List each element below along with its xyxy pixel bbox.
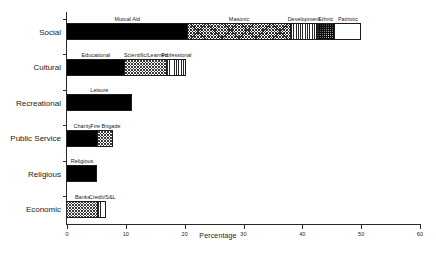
bar-row: CharityFire Brigade xyxy=(67,130,420,147)
x-axis-tick xyxy=(67,225,68,229)
x-axis-tick xyxy=(244,225,245,229)
y-axis-tick xyxy=(63,19,67,20)
y-axis-category-label: Economic xyxy=(26,205,61,214)
y-axis-tick xyxy=(63,125,67,126)
bar-segment-label: Ethnic xyxy=(318,16,333,22)
bar-segment-label: Leisure xyxy=(90,87,108,93)
bar-row: Leisure xyxy=(67,94,420,111)
bar-segment xyxy=(67,23,188,40)
bar-segment xyxy=(335,23,361,40)
y-axis-tick xyxy=(63,54,67,55)
bar-row: EducationalScientific/LearnedProfessiona… xyxy=(67,59,420,76)
bar-segment-label: Credit/S&L xyxy=(89,194,116,200)
bar-segment-label: Masonic xyxy=(229,16,249,22)
x-axis-tick xyxy=(302,225,303,229)
bar-segment-label: Development xyxy=(288,16,320,22)
bar-segment xyxy=(67,59,125,76)
plot-area: 0102030405060SocialMutual AidMasonicDeve… xyxy=(67,12,420,225)
bar-segment xyxy=(67,130,98,147)
bar-segment-label: Banks xyxy=(75,194,90,200)
bar-segment-label: Mutual Aid xyxy=(114,16,140,22)
bar-row: Mutual AidMasonicDevelopmentEthnicPatrio… xyxy=(67,23,420,40)
y-axis-tick xyxy=(63,90,67,91)
bar-row: Religious xyxy=(67,165,420,182)
y-axis-category-label: Social xyxy=(39,27,61,36)
bar-row: BanksCredit/S&L xyxy=(67,201,420,218)
x-axis-tick xyxy=(420,225,421,229)
bar-segment xyxy=(125,59,167,76)
bar-segment xyxy=(67,94,132,111)
bar-segment xyxy=(188,23,291,40)
y-axis-category-label: Cultural xyxy=(33,63,61,72)
bar-segment xyxy=(98,201,106,218)
y-axis-category-label: Public Service xyxy=(10,134,61,143)
bar-segment xyxy=(317,23,335,40)
bar-chart: 0102030405060SocialMutual AidMasonicDeve… xyxy=(0,0,436,253)
bar-segment-label: Charity xyxy=(74,123,91,129)
bar-segment xyxy=(67,165,97,182)
x-axis-tick xyxy=(361,225,362,229)
x-axis-tick xyxy=(126,225,127,229)
bar-segment-label: Fire Brigade xyxy=(91,123,121,129)
y-axis-category-label: Recreational xyxy=(16,98,61,107)
bar-segment xyxy=(291,23,317,40)
bar-segment-label: Educational xyxy=(81,52,110,58)
x-axis-title: Percentage xyxy=(0,232,436,239)
y-axis-tick xyxy=(63,196,67,197)
y-axis-tick xyxy=(63,161,67,162)
x-axis-tick xyxy=(185,225,186,229)
bar-segment xyxy=(167,59,186,76)
y-axis-category-label: Religious xyxy=(28,169,61,178)
bar-segment-label: Professional xyxy=(161,52,191,58)
bar-segment xyxy=(98,130,114,147)
bar-segment-label: Religious xyxy=(71,158,94,164)
bar-segment xyxy=(67,201,98,218)
bar-segment-label: Patriotic xyxy=(338,16,358,22)
